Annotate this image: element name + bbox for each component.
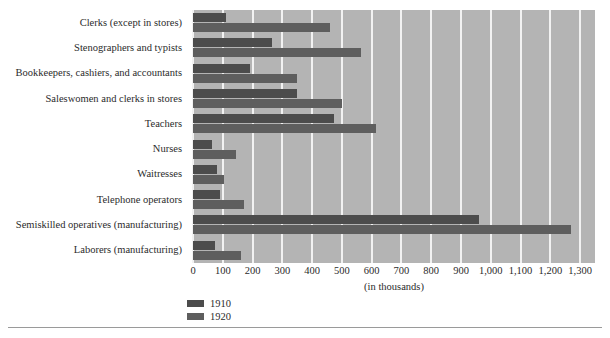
bar-1910	[193, 165, 217, 174]
bar-group	[193, 238, 595, 263]
x-axis-title: (in thousands)	[193, 281, 595, 292]
x-tick-label: 1,300	[568, 265, 592, 277]
bar-1920	[193, 23, 330, 32]
bar-1920	[193, 48, 361, 57]
bar-1920	[193, 175, 224, 184]
category-label: Semiskilled operatives (manufacturing)	[0, 219, 182, 230]
bar-1910	[193, 241, 215, 250]
bar-1920	[193, 74, 297, 83]
bar-1920	[193, 99, 342, 108]
legend-swatch	[187, 300, 204, 307]
legend-swatch	[187, 313, 204, 320]
x-tick-label: 700	[394, 265, 410, 277]
bar-1910	[193, 89, 297, 98]
category-label: Laborers (manufacturing)	[0, 244, 182, 255]
x-tick-label: 600	[364, 265, 380, 277]
x-tick-label: 200	[245, 265, 261, 277]
bar-group	[193, 111, 595, 136]
legend-item: 1910	[187, 297, 307, 310]
x-tick-label: 300	[274, 265, 290, 277]
category-label: Telephone operators	[0, 194, 182, 205]
bar-1910	[193, 190, 220, 199]
bar-group	[193, 35, 595, 60]
bar-group	[193, 61, 595, 86]
category-label: Saleswomen and clerks in stores	[0, 93, 182, 104]
x-tick-label: 900	[453, 265, 469, 277]
bar-1920	[193, 200, 244, 209]
bar-group	[193, 187, 595, 212]
category-label: Bookkeepers, cashiers, and accountants	[0, 67, 182, 78]
x-tick-label: 1,000	[479, 265, 503, 277]
category-label: Stenographers and typists	[0, 42, 182, 53]
bar-1920	[193, 251, 241, 260]
bar-1920	[193, 150, 236, 159]
plot-wrapper	[193, 10, 595, 263]
bar-1910	[193, 140, 212, 149]
bar-1920	[193, 124, 376, 133]
legend-label: 1920	[210, 311, 231, 322]
legend-label: 1910	[210, 298, 231, 309]
bar-1910	[193, 114, 334, 123]
category-label: Nurses	[0, 143, 182, 154]
x-tick-label: 500	[334, 265, 350, 277]
bar-1920	[193, 225, 571, 234]
x-axis-ticks: 01002003004005006007008009001,0001,1001,…	[193, 265, 595, 279]
chart-legend: 19101920	[187, 297, 307, 323]
bar-group	[193, 86, 595, 111]
x-tick-label: 1,200	[539, 265, 563, 277]
x-tick-label: 1,100	[509, 265, 533, 277]
bar-1910	[193, 215, 479, 224]
bottom-divider	[8, 327, 602, 328]
x-tick-label: 800	[423, 265, 439, 277]
x-tick-label: 0	[190, 265, 195, 277]
bar-group	[193, 10, 595, 35]
category-axis-labels: Clerks (except in stores)Stenographers a…	[0, 10, 188, 263]
bar-1910	[193, 38, 272, 47]
category-label: Waitresses	[0, 168, 182, 179]
x-tick-label: 400	[304, 265, 320, 277]
bar-group	[193, 137, 595, 162]
bar-group	[193, 212, 595, 237]
bar-1910	[193, 13, 226, 22]
bar-group	[193, 162, 595, 187]
bar-chart-figure: Clerks (except in stores)Stenographers a…	[0, 0, 610, 338]
category-label: Clerks (except in stores)	[0, 17, 182, 28]
legend-item: 1920	[187, 310, 307, 323]
bar-1910	[193, 64, 250, 73]
x-tick-label: 100	[215, 265, 231, 277]
category-label: Teachers	[0, 118, 182, 129]
